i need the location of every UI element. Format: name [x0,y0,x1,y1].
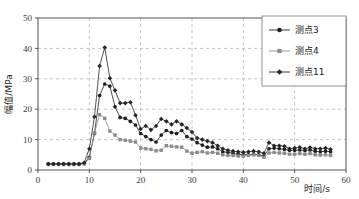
y-axis-title: 幅值/MPa [3,74,14,113]
data-point-marker [123,116,127,120]
data-point-marker [252,153,255,156]
data-point-marker [293,152,296,155]
data-point-marker [154,149,157,152]
data-point-marker [133,113,138,118]
data-point-marker [206,145,210,149]
y-axis-tick-labels: 01020304050 [23,13,33,175]
data-point-marker [97,64,102,69]
data-point-marker [314,153,317,156]
data-point-marker [118,116,122,120]
data-point-marker [103,117,106,120]
data-point-marker [298,145,303,150]
y-tick-label: 30 [23,74,33,84]
data-point-marker [282,144,287,149]
data-point-marker [170,145,173,148]
data-point-marker [185,149,188,152]
data-point-marker [288,152,291,155]
data-point-marker [262,151,267,156]
data-point-marker [190,152,193,155]
data-point-marker [303,152,306,155]
data-point-marker [134,123,138,127]
data-point-marker [154,140,158,144]
data-point-marker [221,153,224,156]
legend-label: 测点4 [295,46,319,56]
y-tick-label: 20 [23,104,33,114]
data-point-marker [139,146,142,149]
data-point-marker [257,154,260,157]
data-point-marker [98,94,102,98]
data-point-marker [221,146,226,151]
data-point-marker [129,120,133,124]
data-point-marker [324,153,327,156]
data-point-marker [211,145,215,149]
data-point-marker [247,154,250,157]
data-point-marker [159,133,163,137]
x-tick-label: 60 [342,175,352,185]
data-point-marker [123,101,128,106]
data-point-marker [323,146,328,151]
y-tick-label: 10 [23,135,33,145]
data-point-marker [195,141,199,145]
data-point-marker [108,76,113,81]
data-point-marker [200,143,204,147]
data-point-marker [246,149,251,154]
data-point-marker [113,88,118,93]
data-point-marker [251,149,256,154]
data-point-marker [318,146,323,151]
data-point-marker [102,45,107,50]
data-point-marker [175,145,178,148]
data-point-marker [144,147,147,150]
data-point-marker [174,119,179,124]
x-tick-label: 30 [188,175,198,185]
data-point-marker [226,154,229,157]
data-point-marker [134,140,137,143]
data-point-marker [118,101,123,106]
chart-legend: 测点3测点4测点11 [262,16,346,86]
data-point-marker [190,137,194,141]
data-point-marker [267,147,271,151]
data-point-marker [210,140,215,145]
data-point-marker [103,82,107,86]
x-tick-label: 40 [239,175,249,185]
data-point-marker [298,152,301,155]
amplitude-time-line-chart: 0102030405060 01020304050 测点3测点4测点11 时间/… [0,0,359,199]
data-point-marker [308,152,311,155]
data-point-marker [165,144,168,147]
data-point-marker [262,156,265,159]
data-point-marker [128,100,133,105]
data-point-marker [277,28,282,33]
data-point-marker [113,133,116,136]
x-axis-title: 时间/s [304,183,330,194]
data-point-marker [139,132,143,136]
data-point-marker [206,151,209,154]
data-point-marker [216,152,219,155]
x-tick-label: 0 [36,175,41,185]
data-point-marker [170,131,174,135]
data-point-marker [98,113,101,116]
data-point-marker [267,151,270,154]
data-point-marker [200,137,205,142]
data-point-marker [211,151,214,154]
data-point-marker [124,139,127,142]
y-tick-label: 40 [23,44,33,54]
data-point-marker [180,129,184,133]
data-point-marker [272,151,275,154]
data-point-marker [169,122,174,127]
data-point-marker [118,138,121,141]
data-point-marker [201,150,204,153]
data-point-marker [149,138,153,142]
data-point-marker [149,148,152,151]
legend-label: 测点3 [295,25,319,35]
data-point-marker [215,143,220,148]
x-tick-label: 50 [290,175,300,185]
data-point-marker [108,129,111,132]
data-point-marker [329,154,332,157]
data-point-marker [175,132,179,136]
data-point-marker [108,84,112,88]
data-point-marker [195,151,198,154]
data-point-marker [237,154,240,157]
data-point-marker [185,135,189,139]
data-point-marker [180,146,183,149]
data-point-marker [164,129,168,133]
y-tick-label: 0 [28,165,33,175]
